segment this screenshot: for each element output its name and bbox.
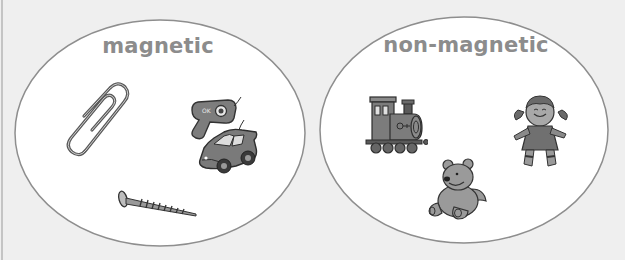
doll-icon xyxy=(508,92,574,172)
teddy-bear-icon xyxy=(424,155,490,221)
magnetic-set-label: magnetic xyxy=(102,34,214,58)
screw-icon xyxy=(116,190,202,218)
paperclip-icon xyxy=(62,80,134,162)
svg-text:OK: OK xyxy=(202,107,212,114)
non-magnetic-set-label: non-magnetic xyxy=(383,33,548,57)
toy-car-icon xyxy=(196,118,262,176)
toy-train-icon xyxy=(364,92,428,156)
